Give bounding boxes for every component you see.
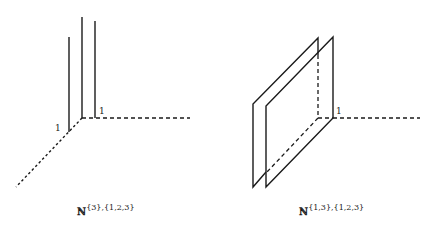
right-plane-back [253, 38, 318, 187]
left-x-tick-label: 1 [99, 106, 105, 116]
left-diag-tick-label: 1 [55, 123, 61, 133]
right-caption: ℕ{1,3},{1,2,3} [299, 203, 364, 217]
left-figure [16, 17, 190, 187]
right-plane-front [266, 37, 333, 187]
right-diagonal-axis [267, 118, 318, 172]
left-caption: ℕ{3},{1,2,3} [77, 203, 135, 217]
right-caption-superscript: {1,3},{1,2,3} [308, 203, 364, 212]
left-diagonal-axis [16, 118, 82, 187]
left-caption-base: ℕ [77, 206, 86, 217]
right-x-tick-label: 1 [336, 106, 342, 116]
right-caption-base: ℕ [299, 206, 308, 217]
left-caption-superscript: {3},{1,2,3} [86, 203, 134, 212]
diagram-canvas [0, 0, 437, 227]
